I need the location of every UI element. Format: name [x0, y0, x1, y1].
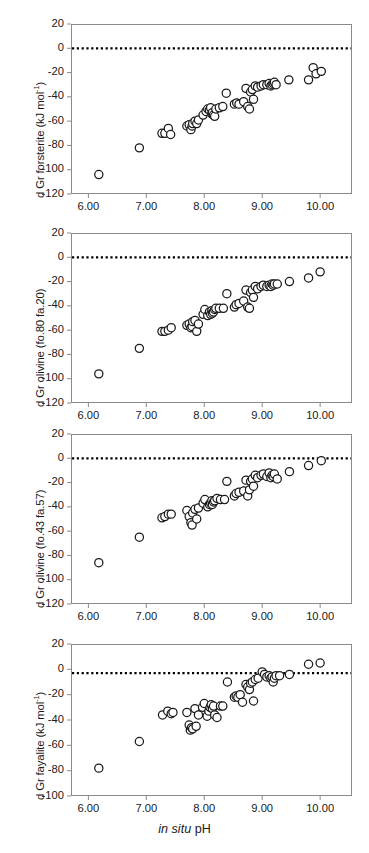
data-point-marker [207, 701, 215, 709]
y-axis-label-tail: ) [34, 82, 46, 86]
y-tick-label: 0 [0, 250, 64, 262]
data-point-marker [269, 79, 277, 87]
data-point-marker [253, 83, 261, 91]
data-point-marker [251, 282, 259, 290]
y-tick-label: 20 [0, 637, 64, 649]
data-point-marker [230, 693, 238, 701]
data-point-marker [205, 308, 213, 316]
data-point-marker [191, 316, 199, 324]
data-point-marker [316, 268, 324, 276]
data-point-marker [216, 702, 224, 710]
y-tick-label: -80 [0, 138, 64, 150]
data-point-marker [183, 122, 191, 130]
data-point-marker [204, 503, 212, 511]
data-point-marker [273, 280, 281, 288]
data-point-marker [187, 519, 195, 527]
y-tick-label: -100 [0, 789, 64, 801]
data-point-marker [204, 105, 212, 113]
data-point-marker [213, 713, 221, 721]
data-point-marker [269, 472, 277, 480]
data-point-marker [244, 492, 252, 500]
data-point-marker [249, 697, 257, 705]
y-tick-label: -40 [0, 713, 64, 725]
data-point-marker [200, 699, 208, 707]
data-point-marker [272, 672, 280, 680]
data-point-marker [189, 725, 197, 733]
data-point-marker [193, 515, 201, 523]
data-point-marker [215, 104, 223, 112]
data-point-marker [158, 327, 166, 335]
data-point-marker [207, 104, 215, 112]
data-point-marker [263, 472, 271, 480]
x-tick-label: 6.00 [58, 200, 118, 212]
data-point-marker [215, 304, 223, 312]
data-point-marker [270, 280, 278, 288]
data-point-marker [270, 674, 278, 682]
data-point-marker [209, 498, 217, 506]
x-tick-label: 6.00 [58, 610, 118, 622]
data-point-marker [269, 281, 277, 289]
data-point-marker [207, 310, 215, 318]
data-point-marker [285, 76, 293, 84]
data-point-marker [273, 475, 281, 483]
data-point-marker [194, 711, 202, 719]
x-tick-label: 7.00 [116, 802, 176, 814]
data-point-marker [158, 711, 166, 719]
y-tick-label: -40 [0, 298, 64, 310]
data-point-marker [192, 722, 200, 730]
data-point-marker [242, 286, 250, 294]
data-point-marker [285, 670, 293, 678]
x-tick-label: 9.00 [232, 802, 292, 814]
x-tick-label: 6.00 [58, 409, 118, 421]
data-point-marker [211, 497, 219, 505]
data-point-marker [242, 680, 250, 688]
y-tick-label: 20 [0, 226, 64, 238]
x-tick-label: 8.00 [174, 610, 234, 622]
plot-graphics [0, 0, 369, 853]
data-point-marker [199, 111, 207, 119]
data-point-marker [95, 170, 103, 178]
y-axis-label: d Gr forsterite (kJ mol-1) [34, 82, 46, 198]
data-point-marker [201, 305, 209, 313]
data-point-marker [169, 708, 177, 716]
x-tick-label: 7.00 [116, 610, 176, 622]
data-point-marker [248, 678, 256, 686]
data-point-marker [247, 477, 255, 485]
data-point-marker [211, 711, 219, 719]
y-tick-label: 0 [0, 451, 64, 463]
data-point-marker [253, 285, 261, 293]
data-point-marker [232, 301, 240, 309]
y-tick-label: -40 [0, 499, 64, 511]
data-point-marker [265, 672, 273, 680]
data-point-marker [209, 702, 217, 710]
data-point-marker [251, 471, 259, 479]
data-point-marker [254, 674, 262, 682]
data-point-marker [244, 102, 252, 110]
data-point-marker [251, 675, 259, 683]
data-point-marker [158, 514, 166, 522]
data-point-marker [202, 107, 210, 115]
data-point-marker [263, 673, 271, 681]
x-tick-label: 8.00 [174, 409, 234, 421]
data-point-marker [167, 710, 175, 718]
data-point-marker [205, 500, 213, 508]
x-axis-label-italic: in situ [158, 822, 191, 836]
data-point-marker [213, 494, 221, 502]
data-point-marker [193, 327, 201, 335]
data-point-marker [194, 504, 202, 512]
data-point-marker [233, 99, 241, 107]
data-point-marker [208, 309, 216, 317]
data-point-marker [223, 477, 231, 485]
data-point-marker [248, 475, 256, 483]
data-point-marker [245, 105, 253, 113]
data-point-marker [244, 303, 252, 311]
data-point-marker [135, 737, 143, 745]
data-point-marker [201, 495, 209, 503]
data-point-marker [167, 510, 175, 518]
data-point-marker [248, 85, 256, 93]
data-point-marker [249, 95, 257, 103]
figure-multi-panel-scatter: in situ pH 200-20-40-60-80-100-1206.007.… [0, 0, 369, 853]
data-point-marker [317, 67, 325, 75]
panel-2: 200-20-40-60-80-100-1206.007.008.009.001… [0, 0, 369, 853]
y-tick-label: -60 [0, 323, 64, 335]
